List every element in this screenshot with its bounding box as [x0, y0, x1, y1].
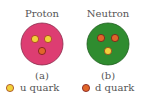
- u-quark-legend-icon: [6, 84, 13, 91]
- u-quark: [44, 35, 51, 42]
- u-quark: [31, 35, 38, 42]
- neutron-caption: (b): [88, 70, 128, 81]
- proton-circle: [21, 23, 63, 65]
- neutron-circle: [87, 23, 129, 65]
- d-quark-legend-label: d quark: [95, 82, 134, 93]
- u-quark: [104, 47, 111, 54]
- d-quark-legend-icon: [82, 84, 89, 91]
- d-quark: [111, 34, 118, 41]
- proton-caption: (a): [22, 70, 62, 81]
- u-quark-legend-label: u quark: [20, 82, 59, 93]
- d-quark: [97, 34, 104, 41]
- d-quark: [38, 47, 45, 54]
